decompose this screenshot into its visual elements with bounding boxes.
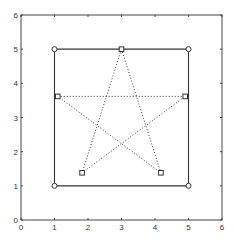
circle-marker [186, 47, 191, 52]
square-marker [159, 170, 164, 175]
y-tick-label: 1 [14, 182, 19, 191]
circle-marker [186, 183, 191, 188]
square-marker [183, 94, 188, 99]
x-tick-label: 1 [52, 223, 57, 232]
square-marker [55, 94, 60, 99]
chart: 0123456 0123456 [0, 0, 234, 242]
x-tick-label: 3 [119, 223, 124, 232]
y-tick-label: 4 [14, 79, 19, 88]
y-tick-label: 0 [14, 216, 19, 225]
circle-marker [52, 47, 57, 52]
square-marker [80, 170, 85, 175]
plot-area [21, 15, 222, 220]
y-tick-label: 5 [14, 45, 19, 54]
x-tick-label: 0 [19, 223, 24, 232]
x-tick-label: 4 [153, 223, 158, 232]
y-tick-label: 2 [14, 148, 19, 157]
y-tick-label: 3 [14, 114, 19, 123]
y-tick-label: 6 [14, 11, 19, 20]
x-tick-label: 6 [220, 223, 225, 232]
square-marker [119, 47, 124, 52]
x-tick-label: 2 [86, 223, 91, 232]
circle-marker [52, 183, 57, 188]
x-tick-label: 5 [186, 223, 191, 232]
